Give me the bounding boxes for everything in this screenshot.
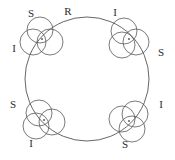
node-circle-b (20, 29, 46, 55)
node-label-s: S (10, 98, 16, 110)
node-circle-a (111, 18, 137, 44)
node-label-i: I (113, 6, 117, 18)
node-bottom-left[interactable]: S I (10, 98, 65, 149)
node-circle-c (37, 29, 63, 55)
node-label-i: I (159, 98, 163, 110)
node-center-dot (128, 120, 130, 122)
node-label-s: S (28, 7, 34, 19)
arc-label-r: R (64, 5, 72, 17)
node-top-right[interactable]: I S (109, 6, 164, 58)
node-top-left[interactable]: S I (12, 7, 63, 55)
node-label-s: S (158, 46, 164, 58)
node-circle-a (122, 101, 148, 127)
node-label-i: I (29, 137, 33, 149)
node-label-i: I (12, 42, 16, 54)
node-center-dot (43, 119, 45, 121)
node-circle-c (109, 32, 135, 58)
node-bottom-right[interactable]: I S (109, 98, 163, 150)
diagram-svg: S I I S S I I S (0, 0, 175, 160)
node-circle-b (109, 106, 135, 132)
node-center-dot (41, 38, 43, 40)
diagram-canvas: S I I S S I I S (0, 0, 175, 160)
node-label-s: S (122, 138, 128, 150)
node-center-dot (128, 38, 130, 40)
